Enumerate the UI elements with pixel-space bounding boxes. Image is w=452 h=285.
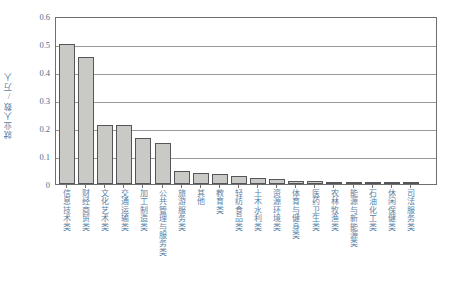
x-tick (104, 185, 105, 188)
y-tick-label: 0.5 (24, 40, 50, 50)
x-tick (123, 185, 124, 188)
bar (193, 173, 209, 184)
x-tick (333, 185, 334, 188)
y-tick-label: 0.1 (24, 152, 50, 162)
x-tick (181, 185, 182, 188)
x-category-label: 轻纺食品类 (233, 189, 242, 231)
plot-area (55, 17, 437, 185)
y-axis-tick-labels: 0.60.50.40.30.20.10 (18, 0, 50, 285)
x-category-label: 资源环境类 (272, 189, 281, 231)
x-category-label: 信息技术类 (62, 189, 71, 231)
bar (155, 143, 171, 184)
bar (116, 125, 132, 184)
x-category-label: 旅游服务类 (176, 189, 185, 231)
y-tick-label: 0 (24, 180, 50, 190)
x-category-label: 教育类 (214, 189, 223, 214)
bar (326, 182, 342, 184)
bar (384, 182, 400, 184)
bar (174, 171, 190, 184)
bar (59, 44, 75, 184)
x-tick (391, 185, 392, 188)
x-tick (162, 185, 163, 188)
x-category-label: 休闲保健类 (386, 189, 395, 231)
x-tick (66, 185, 67, 188)
x-category-label: 医药卫生类 (310, 189, 319, 231)
x-tick (85, 185, 86, 188)
x-tick (410, 185, 411, 188)
x-tick (200, 185, 201, 188)
x-tick (238, 185, 239, 188)
x-category-label: 文化艺术类 (100, 189, 109, 231)
bar (269, 179, 285, 184)
bar (307, 181, 323, 184)
x-category-label: 交通运输类 (119, 189, 128, 231)
bar (231, 176, 247, 184)
y-tick-label: 0.6 (24, 12, 50, 22)
y-tick-label: 0.4 (24, 68, 50, 78)
x-category-label: 公共管理与服务类 (157, 189, 166, 256)
chart-screenshot: 就业人数/万人 0.60.50.40.30.20.10 信息技术类财经商贸类文化… (0, 0, 452, 285)
x-category-label: 能源与新能源类 (348, 189, 357, 248)
bar (403, 182, 419, 184)
x-category-label: 体育与健身类 (291, 189, 300, 239)
bars-group (56, 18, 436, 184)
bar (97, 125, 113, 184)
bar (365, 182, 381, 184)
x-tick (257, 185, 258, 188)
bar (212, 174, 228, 184)
x-category-label: 石油化工类 (367, 189, 376, 231)
bar (346, 182, 362, 184)
bar (250, 178, 266, 184)
y-axis-title: 就业人数/万人 (4, 55, 18, 155)
x-tick (219, 185, 220, 188)
x-tick (295, 185, 296, 188)
x-category-label: 财经商贸类 (81, 189, 90, 231)
x-tick (276, 185, 277, 188)
x-category-label: 土木水利类 (253, 189, 262, 231)
x-tick (314, 185, 315, 188)
x-category-label: 农林牧渔类 (329, 189, 338, 231)
y-tick-label: 0.2 (24, 124, 50, 134)
bar (288, 181, 304, 184)
x-tick (372, 185, 373, 188)
x-category-label: 加工制造类 (138, 189, 147, 231)
x-category-label: 其他 (195, 189, 204, 206)
x-category-label: 司法服务类 (405, 189, 414, 231)
x-tick (353, 185, 354, 188)
bar (135, 138, 151, 184)
y-tick-label: 0.3 (24, 96, 50, 106)
x-tick (142, 185, 143, 188)
bar (78, 57, 94, 184)
